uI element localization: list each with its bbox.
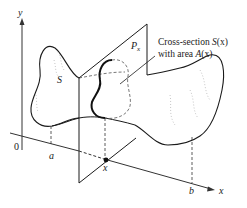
y-axis [20, 18, 25, 150]
solid-s-label: S [57, 74, 62, 85]
plane-label: Px [130, 40, 141, 53]
y-axis-label: y [17, 7, 23, 18]
plane-label-sub: x [136, 45, 141, 53]
cross-section-text: Cross-section [158, 37, 212, 47]
b-label: b [189, 185, 194, 196]
solid-s-outline [31, 47, 224, 145]
x-axis-label: x [218, 185, 224, 196]
x-point-label: x [102, 162, 108, 173]
a-label: a [49, 150, 54, 161]
cross-section [92, 60, 131, 119]
area-text: with area [158, 49, 195, 59]
dashed-projections [51, 118, 192, 183]
cross-section-arg: (x) [217, 37, 228, 48]
cross-section-label-line2: with area A(x) [158, 49, 212, 60]
origin-label: 0 [14, 141, 19, 152]
x-axis [10, 133, 215, 192]
solid-shading [36, 52, 210, 125]
cross-section-label-line1: Cross-section S(x) [158, 37, 228, 48]
label-leader-line [120, 56, 155, 84]
solid-cross-section-diagram: y x [0, 0, 247, 208]
plane-label-main: P [130, 40, 137, 51]
area-arg: (x) [201, 49, 212, 60]
